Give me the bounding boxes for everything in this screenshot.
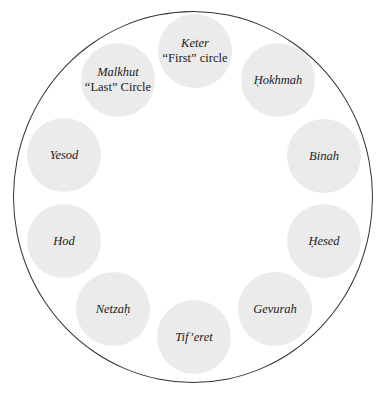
node-name: Ḥesed — [308, 234, 339, 249]
node-tiferet: Tif’eret — [157, 300, 231, 374]
node-name: Netzaḥ — [96, 302, 131, 317]
node-hokhmah: Ḥokhmah — [241, 43, 315, 117]
node-subtitle: “First” circle — [163, 51, 228, 66]
node-name: Tif’eret — [175, 330, 213, 345]
node-binah: Binah — [287, 119, 361, 193]
sefirot-circle-diagram: Keter “First” circle Ḥokhmah Binah Ḥesed… — [0, 0, 386, 395]
node-hod: Hod — [27, 204, 101, 278]
node-netzah: Netzaḥ — [76, 272, 150, 346]
node-gevurah: Gevurah — [238, 272, 312, 346]
node-malkhut: Malkhut “Last” Circle — [81, 43, 155, 117]
node-name: Binah — [309, 149, 339, 164]
node-name: Malkhut — [97, 65, 139, 80]
node-name: Hod — [53, 234, 75, 249]
node-keter: Keter “First” circle — [158, 14, 232, 88]
node-name: Keter — [181, 36, 209, 51]
node-name: Ḥokhmah — [254, 73, 303, 88]
node-name: Yesod — [50, 148, 79, 163]
node-name: Gevurah — [253, 302, 297, 317]
node-yesod: Yesod — [27, 118, 101, 192]
node-hesed: Ḥesed — [287, 204, 361, 278]
node-subtitle: “Last” Circle — [85, 80, 151, 95]
